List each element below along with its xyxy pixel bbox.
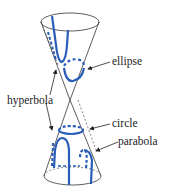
upper-cone — [41, 13, 99, 100]
hyperbola-upper — [52, 16, 68, 62]
hyperbola-lower — [54, 138, 69, 185]
parabola-label: parabola — [118, 135, 158, 148]
parabola-curve — [80, 150, 92, 184]
ellipse-label: ellipse — [112, 55, 142, 68]
circle-curve — [59, 126, 83, 134]
hyperbola-label: hyperbola — [7, 94, 53, 107]
conic-sections-diagram: ellipse hyperbola circle parabola — [0, 0, 174, 196]
circle-label: circle — [112, 117, 138, 129]
